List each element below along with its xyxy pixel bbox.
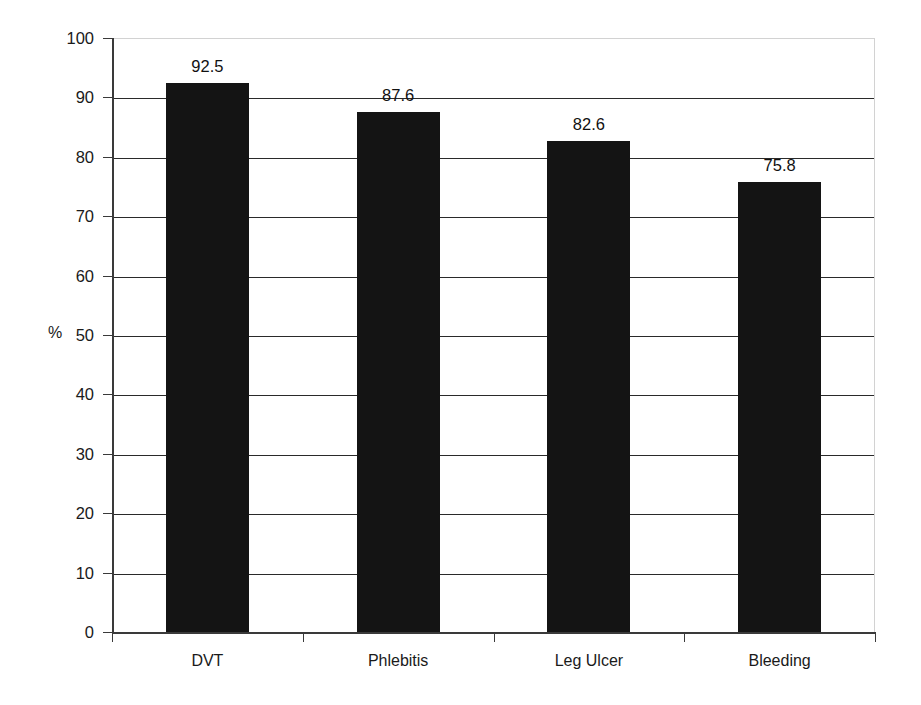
bar-value-label: 87.6 — [348, 86, 448, 105]
y-axis-tick — [103, 454, 112, 455]
bar-leg-ulcer[interactable] — [547, 141, 630, 632]
y-axis-tick — [103, 97, 112, 98]
y-axis-tick — [103, 157, 112, 158]
y-axis-tick-label: 40 — [38, 385, 94, 403]
x-axis-tick — [684, 633, 685, 642]
bar-phlebitis[interactable] — [357, 112, 440, 632]
y-axis-tick — [103, 513, 112, 514]
bar-value-label: 82.6 — [539, 115, 639, 134]
y-axis-tick-label: 70 — [38, 207, 94, 225]
category-label-bleeding: Bleeding — [700, 651, 860, 671]
y-axis-tick-label: 50 — [38, 326, 94, 344]
bar-value-label: 75.8 — [730, 156, 830, 175]
category-label-dvt: DVT — [127, 651, 287, 671]
x-axis-tick — [112, 633, 113, 642]
y-axis-tick — [103, 573, 112, 574]
y-axis-tick-label: 20 — [38, 504, 94, 522]
y-axis-tick-label: 100 — [38, 29, 94, 47]
y-axis-tick-label: 80 — [38, 148, 94, 166]
y-axis-tick-label: 90 — [38, 88, 94, 106]
y-axis-tick-label: 30 — [38, 445, 94, 463]
bar-value-label: 92.5 — [157, 57, 257, 76]
y-axis-tick — [103, 335, 112, 336]
bar-bleeding[interactable] — [738, 182, 821, 632]
y-axis-tick-label: 60 — [38, 267, 94, 285]
plot-area — [112, 38, 875, 632]
y-axis-tick — [103, 216, 112, 217]
y-axis-tick — [103, 38, 112, 39]
category-label-phlebitis: Phlebitis — [318, 651, 478, 671]
x-axis-tick — [875, 633, 876, 642]
y-axis-line — [112, 38, 114, 633]
bar-dvt[interactable] — [166, 83, 249, 632]
y-axis-tick-label: 10 — [38, 564, 94, 582]
y-axis-tick — [103, 394, 112, 395]
bar-chart: % 1009080706050403020100 92.587.682.675.… — [0, 0, 921, 705]
x-axis-tick — [303, 633, 304, 642]
y-axis-tick-label: 0 — [38, 623, 94, 641]
category-label-leg-ulcer: Leg Ulcer — [509, 651, 669, 671]
y-axis-tick — [103, 632, 112, 633]
x-axis-tick — [494, 633, 495, 642]
y-axis-tick — [103, 276, 112, 277]
